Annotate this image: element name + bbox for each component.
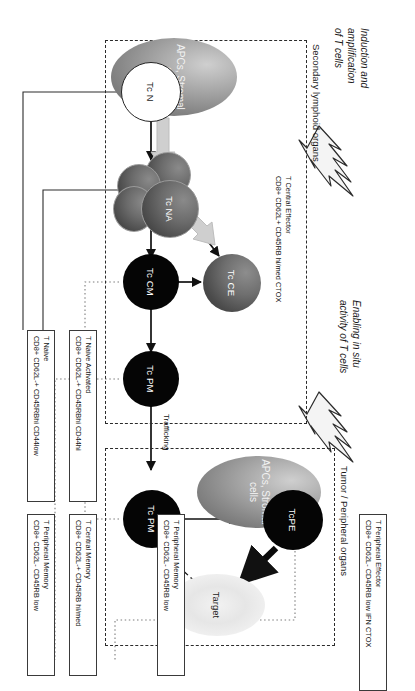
legend-t-peripheral-memory-line1: T Peripheral Memory — [171, 520, 181, 670]
t-central-effector-line1: T Central Effector — [284, 176, 293, 234]
phase-induction-line1: Induction and — [359, 28, 370, 88]
cell-tc-n-label: Tc N — [146, 82, 157, 102]
cell-tc-cm: Tc CM — [123, 254, 179, 310]
phase-induction-line3: of T cells — [333, 28, 344, 68]
inline-label-t-central-effector: T Central Effector CD8+ CD62L+ CD45RB hi… — [273, 176, 293, 302]
cell-tc-ce-label: Tc CE — [227, 270, 238, 296]
t-central-effector-line2: CD8+ CD62L+ CD45RB hi/med CTOX — [274, 176, 283, 302]
legend-t-peripheral-effector: T Peripheral Effector CD8+ CD62L- CD45RB… — [359, 514, 387, 691]
legend-t-peripheral-effector-line1: T Peripheral Effector — [373, 520, 383, 685]
cell-tc-pe-label: TcPE — [288, 509, 299, 532]
cell-tc-n: Tc N — [121, 62, 181, 122]
phase-enabling-line1: Enabling in situ — [351, 300, 362, 368]
legend-t-peripheral-memory: T Peripheral Memory CD8+ CD62L- CD45RB l… — [157, 514, 185, 676]
cell-tc-pm-lymphoid-label: Tc PM — [146, 365, 157, 392]
edge-label-trafficking: Trafficking — [162, 414, 171, 450]
legend-t-peripheral-memory-lymphoid-line1: T Peripheral Memory — [41, 520, 51, 670]
cell-tc-pm-peripheral-label: Tc PM — [147, 505, 158, 532]
cell-tc-na-label: Tc NA — [165, 196, 176, 221]
legend-t-peripheral-memory-line2: CD8+ CD62L- CD45RB low — [161, 520, 171, 670]
legend-t-naive-activated-line1: T Naive Activated — [83, 336, 93, 496]
legend-t-naive: T Naive CD8+ CD62L-+ CD45RBhi CD44low — [27, 330, 55, 502]
phase-enabling-label: Enabling in situ activity of T cells — [337, 300, 363, 373]
region-secondary-lymphoid-organs-label: Secondary lymphoid organs — [311, 44, 322, 162]
cell-tc-na: Tc NA — [115, 152, 201, 236]
cell-tc-pm-lymphoid: Tc PM — [123, 351, 179, 407]
legend-t-naive-activated: T Naive Activated CD8+ CD62L-+ CD45RBhi … — [69, 330, 97, 502]
legend-t-naive-line1: T Naive — [41, 336, 51, 496]
phase-induction-line2: amplification — [346, 28, 357, 84]
tc-na-blob-front: Tc NA — [141, 180, 199, 238]
legend-t-naive-activated-line2: CD8+ CD62L-+ CD45RBhi CD44hi — [73, 336, 83, 496]
cell-tc-ce: Tc CE — [203, 254, 261, 312]
phase-induction-label: Induction and amplification of T cells — [332, 28, 371, 88]
apc-peripheral-line2: cells — [247, 482, 260, 502]
region-tumor-peripheral-organs-label: Tumor / Peripheral organs — [339, 466, 350, 576]
legend-t-peripheral-effector-line2: CD8+ CD62L- CD45RB low IFN CTOX — [363, 520, 373, 685]
legend-t-peripheral-memory-lymphoid-line2: CD8+ CD62L- CD45RB low — [31, 520, 41, 670]
legend-t-central-memory-line2: CD8+ CD62L-+ CD45RB hi/med — [73, 520, 83, 670]
legend-t-peripheral-memory-lymphoid: T Peripheral Memory CD8+ CD62L- CD45RB l… — [27, 514, 55, 676]
legend-t-central-memory: T Central Memory CD8+ CD62L-+ CD45RB hi/… — [69, 514, 97, 676]
cell-tc-pe: TcPE — [263, 490, 323, 550]
cell-tc-cm-label: Tc CM — [146, 268, 157, 296]
phase-enabling-line2: activity of T cells — [338, 300, 349, 373]
legend-t-central-memory-line1: T Central Memory — [83, 520, 93, 670]
legend-t-naive-line2: CD8+ CD62L-+ CD45RBhi CD44low — [31, 336, 41, 496]
